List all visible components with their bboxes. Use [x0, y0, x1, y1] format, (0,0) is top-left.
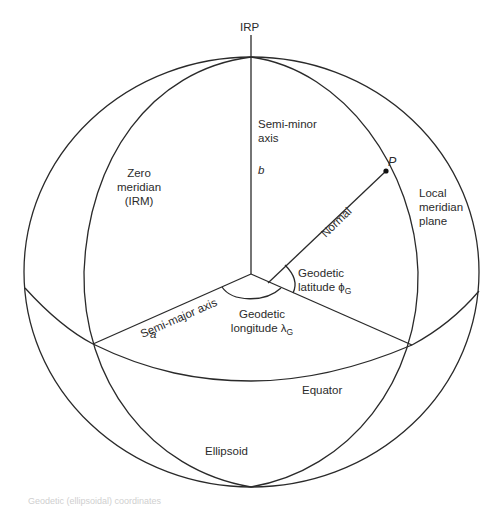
faded-caption: Geodetic (ellipsoidal) coordinates	[28, 496, 161, 506]
local-meridian-plane-label: Local meridian plane	[419, 186, 463, 228]
semi-minor-axis-label-line2: axis	[258, 131, 317, 145]
irp-label: IRP	[240, 20, 259, 34]
p-label: P	[388, 155, 396, 169]
point-p-marker	[383, 168, 388, 173]
zero-meridian-label-line1: Zero	[113, 166, 165, 180]
latitude-word: latitude	[298, 281, 335, 293]
zero-meridian-curve	[84, 57, 251, 487]
ellipsoid-diagram	[0, 0, 498, 506]
latitude-angle-arc	[285, 265, 295, 293]
geodetic-longitude-line2: longitude λG	[222, 321, 302, 339]
longitude-word: longitude	[231, 322, 278, 334]
lambda-subscript: G	[287, 327, 294, 337]
semi-minor-axis-label: Semi-minor axis	[258, 117, 317, 145]
semi-minor-axis-label-line1: Semi-minor	[258, 117, 317, 131]
local-meridian-label-line1: Local	[419, 186, 463, 200]
equator-label: Equator	[302, 383, 342, 397]
ellipsoid-label: Ellipsoid	[205, 444, 248, 458]
longitude-angle-arc	[222, 287, 281, 299]
zero-meridian-label-line3: (IRM)	[113, 194, 165, 208]
geodetic-latitude-line2: latitude ϕG	[298, 280, 351, 298]
local-meridian-label-line2: meridian	[419, 200, 463, 214]
local-meridian-label-line3: plane	[419, 214, 463, 228]
geodetic-latitude-line1: Geodetic	[298, 266, 351, 280]
a-label: a	[150, 327, 156, 341]
zero-meridian-label-line2: meridian	[113, 180, 165, 194]
b-label: b	[258, 163, 264, 177]
geodetic-latitude-label: Geodetic latitude ϕG	[298, 266, 351, 298]
geodetic-longitude-line1: Geodetic	[222, 307, 302, 321]
phi-subscript: G	[345, 286, 352, 296]
geodetic-longitude-label: Geodetic longitude λG	[222, 307, 302, 339]
zero-meridian-label: Zero meridian (IRM)	[113, 166, 165, 208]
